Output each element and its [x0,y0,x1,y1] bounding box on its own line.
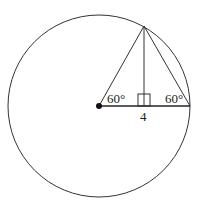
right-angle-label: 60° [165,91,183,106]
center-point [96,103,102,109]
left-angle-label: 60° [107,91,125,106]
circle-triangle-diagram: 60° 60° 4 [0,0,202,210]
segment-label: 4 [140,109,147,124]
